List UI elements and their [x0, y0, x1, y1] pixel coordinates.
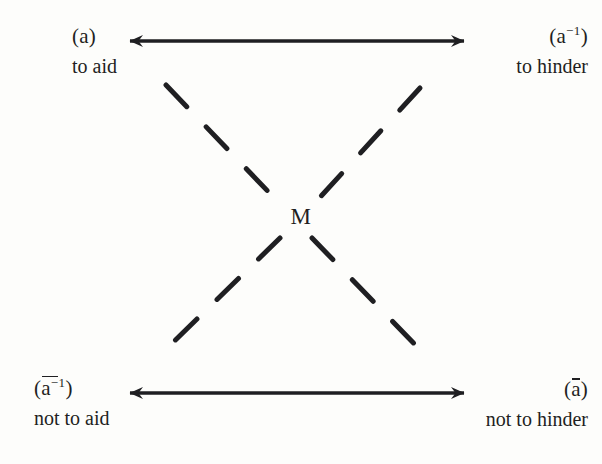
corner-top-right-symbol: (a−1): [549, 26, 588, 47]
corner-bottom-right-symbol: (a): [564, 378, 588, 400]
diagonal-tr-bl-upper: [312, 88, 420, 206]
corner-bottom-right-gloss: not to hinder: [486, 409, 588, 429]
paren-close: ): [89, 24, 96, 48]
corner-bottom-left: (a−1) not to aid: [34, 378, 110, 428]
superscript-minus-one: −1: [566, 23, 581, 38]
paren-close: ): [581, 24, 588, 48]
corner-bottom-right: (a) not to hinder: [486, 378, 588, 429]
corner-top-left-gloss: to aid: [72, 56, 117, 76]
corner-top-right-gloss: to hinder: [516, 56, 588, 76]
paren-close: ): [581, 377, 588, 401]
corner-top-left: (a) to aid: [72, 26, 117, 76]
corner-top-right: (a−1) to hinder: [516, 26, 588, 76]
diagonal-tl-br-lower: [312, 238, 428, 358]
paren-open: (: [34, 376, 41, 400]
superscript-minus-one: −1: [51, 375, 66, 390]
paren-open: (: [564, 377, 571, 401]
diagonal-tr-bl-lower: [158, 238, 280, 357]
negation-bar: a: [571, 378, 581, 400]
center-node-label: M: [0, 204, 602, 230]
corner-bottom-left-gloss: not to aid: [34, 408, 110, 428]
symbol-base: a: [41, 376, 51, 400]
negation-bar: a−1: [41, 378, 65, 399]
symbol-base: a: [556, 24, 566, 48]
corner-top-left-symbol: (a): [72, 26, 96, 47]
paren-close: ): [66, 376, 73, 400]
corner-bottom-left-symbol: (a−1): [34, 378, 73, 399]
diagram-canvas: M (a) to aid (a−1) to hinder (a−1) not t…: [0, 0, 602, 464]
symbol-base: a: [79, 24, 89, 48]
diagonal-tl-br-upper: [166, 85, 282, 206]
symbol-base: a: [571, 377, 581, 401]
center-node-text: M: [291, 204, 312, 229]
